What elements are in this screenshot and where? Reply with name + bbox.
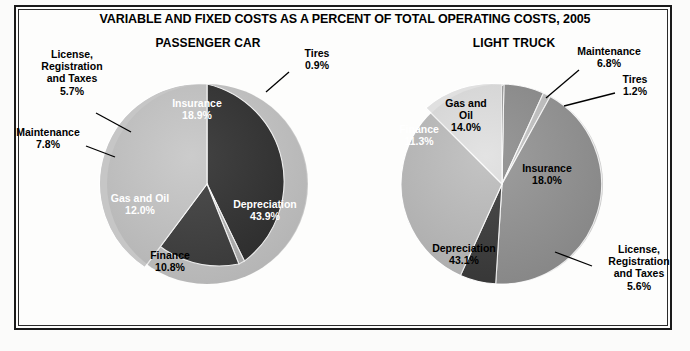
outside-label-left-maintenance: Maintenance 7.8% — [2, 126, 94, 150]
slice-label-right-gas-and-oil-name1: Gas and — [445, 97, 486, 109]
slice-label-right-insurance-value: 18.0% — [532, 174, 562, 186]
outside-label-right-license: License, Registration and Taxes 5.6% — [592, 243, 686, 292]
pie-right-shading — [402, 84, 602, 284]
outside-label-right-tires: Tires 1.2% — [608, 73, 662, 97]
slice-label-right-gas-and-oil-name2: Oil — [459, 109, 473, 121]
slice-label-right-finance-name: Finance — [399, 123, 439, 135]
outside-label-left-license: License, Registration and Taxes 5.7% — [24, 48, 120, 97]
chart-figure: VARIABLE AND FIXED COSTS AS A PERCENT OF… — [0, 0, 690, 351]
slice-label-right-depreciation-name: Depreciation — [432, 242, 496, 254]
slice-label-left-insurance-name: Insurance — [172, 97, 222, 109]
slice-label-right-insurance-name: Insurance — [522, 162, 572, 174]
slice-label-left-insurance-value: 18.9% — [182, 109, 212, 121]
slice-label-left-finance-value: 10.8% — [155, 261, 185, 273]
slice-label-right-depreciation-value: 43.1% — [449, 254, 479, 266]
slice-label-left-depreciation-name: Depreciation — [233, 198, 297, 210]
slice-label-left-depreciation-value: 43.9% — [250, 210, 280, 222]
slice-label-left-gas-and-oil-value: 12.0% — [125, 204, 155, 216]
outside-label-right-maintenance: Maintenance 6.8% — [563, 45, 655, 69]
slice-label-left-gas-and-oil-name: Gas and Oil — [111, 192, 169, 204]
pie-passenger-car: Depreciation 43.9% Insurance 18.9% Gas a… — [86, 72, 308, 284]
slice-label-left-finance-name: Finance — [150, 249, 190, 261]
slice-label-right-finance-value: 11.3% — [404, 135, 434, 147]
leader-line-right-maintenance — [546, 70, 579, 98]
pie-light-truck: Gas and Oil 14.0% Finance 11.3% Insuranc… — [399, 70, 615, 284]
outside-label-left-tires: Tires 0.9% — [286, 47, 348, 71]
slice-label-right-gas-and-oil-value: 14.0% — [451, 121, 481, 133]
leader-line-left-tires — [266, 72, 289, 92]
